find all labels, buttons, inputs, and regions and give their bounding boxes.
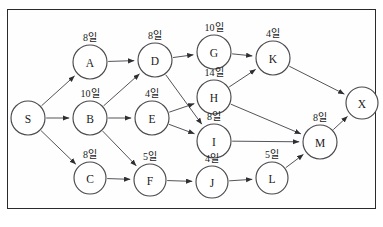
edge-a-to-d (108, 61, 134, 62)
duration-label-a: 8일 (83, 32, 97, 43)
node-label-x: X (358, 98, 367, 110)
node-h[interactable]: H14일 (197, 67, 231, 114)
edge-c-to-f (107, 179, 130, 180)
node-d[interactable]: D8일 (138, 30, 172, 77)
edge-f-to-j (167, 181, 192, 182)
nodes-layer: SA8일B10일C8일D8일E4일F5일G10일H14일I8일J4일K4일L5일… (11, 22, 378, 198)
node-s[interactable]: S (11, 101, 45, 135)
node-c[interactable]: C8일 (74, 149, 106, 194)
node-l[interactable]: L5일 (256, 149, 288, 194)
edge-b-to-d (104, 74, 140, 106)
node-label-a: A (86, 57, 95, 69)
duration-label-g: 10일 (205, 22, 224, 33)
node-j[interactable]: J4일 (196, 153, 228, 198)
node-label-f: F (147, 175, 153, 187)
node-label-m: M (315, 137, 325, 149)
node-m[interactable]: M8일 (303, 112, 337, 159)
node-label-e: E (148, 113, 155, 125)
node-label-g: G (210, 47, 218, 59)
edge-h-to-m (231, 104, 301, 134)
duration-label-d: 8일 (148, 30, 162, 41)
duration-label-c: 8일 (83, 149, 97, 160)
node-f[interactable]: F5일 (134, 151, 166, 196)
node-k[interactable]: K4일 (256, 28, 290, 75)
node-label-c: C (86, 173, 94, 185)
node-x[interactable]: X (346, 87, 378, 119)
node-b[interactable]: B10일 (73, 88, 107, 135)
duration-label-l: 5일 (265, 149, 279, 160)
node-label-d: D (151, 55, 159, 67)
edge-j-to-l (229, 179, 252, 181)
duration-label-k: 4일 (266, 28, 280, 39)
edge-s-to-c (41, 131, 76, 165)
duration-label-i: 8일 (207, 111, 221, 122)
edge-d-to-i (166, 75, 202, 124)
edge-l-to-m (286, 154, 304, 167)
edge-m-to-x (333, 116, 347, 129)
node-i[interactable]: I8일 (197, 111, 231, 158)
edge-e-to-h (169, 104, 194, 112)
edge-d-to-g (173, 55, 193, 58)
node-label-h: H (210, 92, 218, 104)
node-label-s: S (25, 113, 31, 125)
node-label-k: K (269, 53, 278, 65)
duration-label-f: 5일 (143, 151, 157, 162)
duration-label-m: 8일 (313, 112, 327, 123)
edge-g-to-k (232, 54, 252, 56)
duration-label-h: 14일 (205, 67, 224, 78)
node-label-j: J (210, 177, 215, 189)
edge-b-to-f (103, 131, 137, 166)
edge-k-to-x (289, 66, 344, 94)
node-label-b: B (86, 113, 94, 125)
edge-s-to-a (42, 76, 75, 106)
duration-label-b: 10일 (81, 88, 100, 99)
node-g[interactable]: G10일 (197, 22, 231, 69)
node-label-l: L (268, 173, 275, 185)
edge-e-to-i (169, 124, 194, 133)
duration-label-j: 4일 (205, 153, 219, 164)
network-graph: SA8일B10일C8일D8일E4일F5일G10일H14일I8일J4일K4일L5일… (0, 0, 383, 227)
node-a[interactable]: A8일 (73, 32, 107, 79)
node-e[interactable]: E4일 (135, 88, 169, 135)
node-label-i: I (212, 136, 216, 148)
diagram-canvas: SA8일B10일C8일D8일E4일F5일G10일H14일I8일J4일K4일L5일… (0, 0, 383, 227)
duration-label-e: 4일 (145, 88, 159, 99)
edge-h-to-k (229, 69, 255, 86)
edge-i-to-m (232, 141, 299, 142)
